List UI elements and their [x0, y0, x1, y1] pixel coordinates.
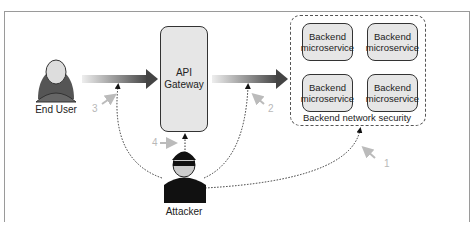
attack-number-3: 3 [92, 103, 98, 114]
network-security-label: Backend network security [295, 112, 419, 123]
attacker-icon [164, 152, 206, 204]
attacker-label: Attacker [158, 206, 210, 217]
attack-number-4: 4 [152, 137, 158, 148]
backend-microservice-3: Backendmicroservice [302, 74, 353, 112]
flow-arrow-gateway-to-backend [212, 69, 288, 89]
attack-number-1: 1 [384, 158, 390, 169]
end-user-icon [36, 60, 76, 102]
backend-microservice-1: Backendmicroservice [302, 23, 353, 61]
attack-number-2: 2 [268, 103, 274, 114]
backend-microservice-4: Backendmicroservice [367, 74, 418, 112]
gateway-line1: API [164, 67, 203, 79]
backend-microservice-2: Backendmicroservice [367, 23, 418, 61]
end-user-label: End User [30, 104, 82, 115]
gateway-line2: Gateway [164, 79, 203, 91]
api-gateway: APIGateway [160, 26, 208, 132]
flow-arrow-user-to-gateway [82, 69, 158, 89]
